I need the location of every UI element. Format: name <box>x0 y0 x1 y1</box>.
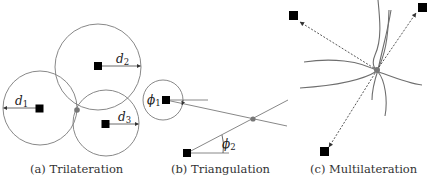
estimated-position-dot <box>74 107 80 113</box>
panel-multilateration: (c) Multilateration <box>289 0 427 176</box>
anchor-node-c1 <box>289 11 298 20</box>
label-d1: d1 <box>15 94 28 109</box>
panel-triangulation: ϕ1 ϕ2 (b) Triangulation <box>143 80 288 176</box>
range-vector-1 <box>300 22 377 70</box>
estimated-position-dot <box>250 116 255 121</box>
anchor-node-b1 <box>162 96 170 104</box>
anchor-node-b2 <box>183 149 191 157</box>
anchor-node-3 <box>102 120 110 128</box>
caption-trilateration: (a) Trilateration <box>30 162 124 176</box>
hyperbola-curve-3 <box>373 0 386 116</box>
caption-multilateration: (c) Multilateration <box>310 162 418 176</box>
label-phi1: ϕ1 <box>147 93 161 108</box>
label-d2: d2 <box>116 52 129 67</box>
anchor-node-c2 <box>418 3 427 12</box>
estimated-position-dot <box>374 67 380 73</box>
range-vector-3 <box>329 70 377 147</box>
caption-triangulation: (b) Triangulation <box>171 162 271 176</box>
label-d3: d3 <box>118 110 131 125</box>
hyperbola-curve-1 <box>304 60 422 85</box>
bearing-line-1 <box>166 100 287 126</box>
anchor-node-2 <box>94 62 102 70</box>
anchor-node-1 <box>36 105 44 113</box>
range-vector-2 <box>377 13 416 70</box>
anchor-node-c3 <box>320 147 329 156</box>
localization-figure: d1 d2 d3 (a) Trilateration ϕ1 ϕ2 (b) Tri… <box>0 0 430 180</box>
label-phi2: ϕ2 <box>222 137 236 152</box>
panel-trilateration: d1 d2 d3 (a) Trilateration <box>3 24 141 176</box>
